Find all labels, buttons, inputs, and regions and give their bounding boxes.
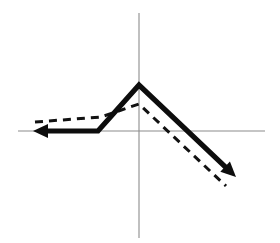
figure-root	[0, 0, 280, 243]
left-arrowhead-icon	[33, 124, 48, 138]
dashed-curve	[35, 104, 226, 186]
line-diagram-svg	[0, 0, 280, 243]
solid-curve	[43, 85, 229, 170]
